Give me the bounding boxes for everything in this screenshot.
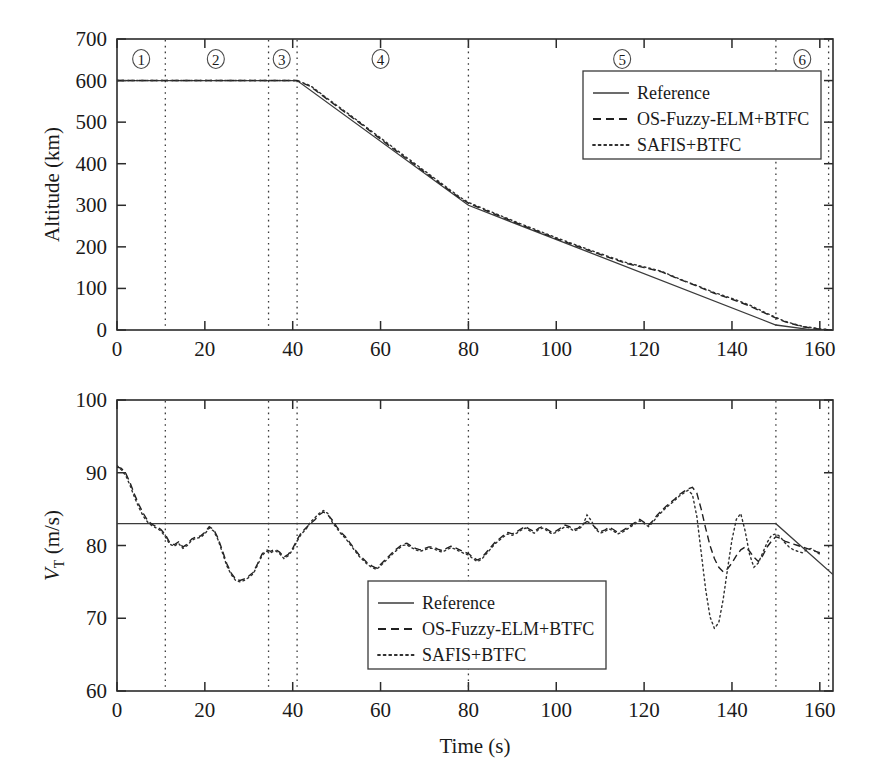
- chart-legend: ReferenceOS-Fuzzy-ELM+BTFCSAFIS+BTFC: [583, 71, 821, 159]
- x-axis-tick-label: 0: [112, 337, 123, 361]
- x-axis-tick-label: 20: [194, 337, 215, 361]
- y-axis-title: Altitude (km): [40, 127, 64, 242]
- phase-marker-label: 5: [618, 52, 626, 68]
- figure-root: 0100200300400500600700020406080100120140…: [0, 0, 875, 773]
- y-axis-tick-label: 600: [76, 69, 108, 93]
- svg-text:VT (m/s): VT (m/s): [40, 510, 67, 581]
- x-axis-tick-label: 100: [541, 337, 573, 361]
- legend-label: OS-Fuzzy-ELM+BTFC: [422, 619, 594, 639]
- y-axis-tick-label: 700: [76, 27, 108, 51]
- phase-marker-label: 6: [799, 52, 807, 68]
- x-axis-tick-label: 140: [716, 337, 748, 361]
- y-axis-tick-label: 100: [76, 276, 108, 300]
- x-axis-tick-label: 0: [112, 698, 123, 722]
- legend-label: Reference: [637, 83, 710, 103]
- phase-marker-label: 3: [278, 52, 286, 68]
- x-axis-tick-label: 80: [458, 337, 479, 361]
- x-axis-tick-label: 60: [370, 698, 391, 722]
- y-axis-tick-label: 100: [76, 388, 108, 412]
- y-axis-tick-label: 70: [86, 606, 107, 630]
- y-axis-tick-label: 80: [86, 534, 107, 558]
- y-axis-tick-label: 0: [97, 318, 108, 342]
- altitude-chart-svg: 0100200300400500600700020406080100120140…: [0, 0, 875, 390]
- phase-marker-label: 4: [377, 52, 385, 68]
- x-axis-title: Time (s): [440, 734, 511, 758]
- x-axis-tick-label: 160: [804, 698, 836, 722]
- x-axis-tick-label: 80: [458, 698, 479, 722]
- velocity-chart-svg: 60708090100020406080100120140160VT (m/s)…: [0, 385, 875, 773]
- x-axis-tick-label: 160: [804, 337, 836, 361]
- velocity-chart-panel: 60708090100020406080100120140160VT (m/s)…: [0, 385, 875, 773]
- chart-legend: ReferenceOS-Fuzzy-ELM+BTFCSAFIS+BTFC: [368, 581, 606, 669]
- phase-marker-label: 2: [212, 52, 220, 68]
- x-axis-tick-label: 140: [716, 698, 748, 722]
- y-axis-title: VT (m/s): [40, 510, 67, 581]
- series-line-reference: [117, 524, 833, 575]
- y-axis-tick-label: 300: [76, 193, 108, 217]
- legend-label: SAFIS+BTFC: [422, 645, 526, 665]
- x-axis-tick-label: 40: [282, 698, 303, 722]
- legend-label: OS-Fuzzy-ELM+BTFC: [637, 109, 809, 129]
- legend-label: Reference: [422, 593, 495, 613]
- x-axis-tick-label: 120: [628, 698, 660, 722]
- altitude-chart-panel: 0100200300400500600700020406080100120140…: [0, 0, 875, 390]
- y-axis-tick-label: 500: [76, 110, 108, 134]
- y-axis-tick-label: 400: [76, 152, 108, 176]
- y-axis-tick-label: 60: [86, 679, 107, 703]
- y-axis-tick-label: 90: [86, 461, 107, 485]
- x-axis-tick-label: 60: [370, 337, 391, 361]
- x-axis-tick-label: 120: [628, 337, 660, 361]
- legend-label: SAFIS+BTFC: [637, 135, 741, 155]
- y-axis-tick-label: 200: [76, 235, 108, 259]
- x-axis-tick-label: 20: [194, 698, 215, 722]
- phase-marker-label: 1: [137, 52, 145, 68]
- x-axis-tick-label: 40: [282, 337, 303, 361]
- x-axis-tick-label: 100: [541, 698, 573, 722]
